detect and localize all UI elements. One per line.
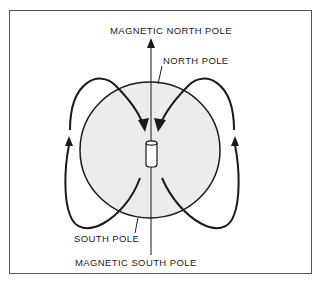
magnetic-field-diagram [0, 0, 319, 282]
magnetic-north-pole-label: MAGNETIC NORTH POLE [110, 26, 232, 36]
magnetic-south-pole-label: MAGNETIC SOUTH POLE [75, 258, 197, 268]
bar-magnet [146, 141, 157, 167]
south-pole-label: SOUTH POLE [74, 234, 139, 244]
north-arrow-icon [147, 38, 155, 48]
north-pole-leader [158, 66, 162, 84]
south-pole-leader [135, 218, 138, 233]
north-pole-label: NORTH POLE [163, 56, 229, 66]
